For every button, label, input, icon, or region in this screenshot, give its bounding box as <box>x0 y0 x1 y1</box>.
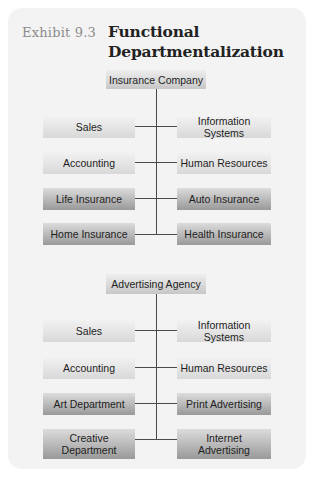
connector-line <box>135 367 177 368</box>
connector-line <box>135 439 177 440</box>
org-root-insurance-company: Insurance Company <box>106 70 206 89</box>
dept-box-right: Human Resources <box>177 357 271 379</box>
title-line-2: Departmentalization <box>108 42 284 62</box>
dept-box-left: Accounting <box>43 357 135 379</box>
dept-box-left: Sales <box>43 116 135 138</box>
dept-box-right: Human Resources <box>177 152 271 174</box>
connector-line <box>135 126 177 127</box>
dept-box-left: Sales <box>43 320 135 342</box>
dept-box-left: Accounting <box>43 152 135 174</box>
dept-box-right: Information Systems <box>177 320 271 342</box>
connector-line <box>135 403 177 404</box>
connector-line <box>135 330 177 331</box>
dept-box-right: Health Insurance <box>177 223 271 245</box>
exhibit-label: Exhibit 9.3 <box>22 25 96 40</box>
dept-box-left: Life Insurance <box>43 188 135 210</box>
connector-line <box>135 162 177 163</box>
dept-box-right: Internet Advertising <box>177 429 271 459</box>
dept-box-left: Home Insurance <box>43 223 135 245</box>
title-line-1: Functional <box>108 22 284 42</box>
dept-box-left: Art Department <box>43 393 135 415</box>
connector-line <box>135 234 177 235</box>
dept-box-right: Information Systems <box>177 116 271 138</box>
dept-box-left: Creative Department <box>43 429 135 459</box>
page-title: Functional Departmentalization <box>108 22 284 62</box>
dept-box-right: Auto Insurance <box>177 188 271 210</box>
dept-box-right: Print Advertising <box>177 393 271 415</box>
org-root-advertising-agency: Advertising Agency <box>106 274 206 294</box>
connector-line <box>135 198 177 199</box>
